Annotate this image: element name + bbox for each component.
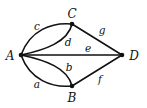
edge-f [72, 55, 122, 86]
vertex-label-d: D [128, 49, 139, 63]
vertex-a-dot [19, 53, 24, 58]
edge-label-g: g [99, 24, 106, 36]
edge-label-c: c [34, 20, 40, 32]
edge-label-f: f [97, 73, 104, 85]
edge-label-d: d [65, 36, 72, 48]
edge-g [72, 24, 122, 55]
graph-diagram: A B C D a b c d e f g [0, 0, 147, 108]
vertex-label-b: B [67, 91, 77, 105]
vertex-c-dot [70, 22, 75, 27]
edge-label-b: b [66, 61, 73, 73]
edge-b [21, 55, 72, 86]
edge-a [21, 55, 72, 86]
vertex-label-c: C [67, 7, 76, 21]
vertex-d-dot [120, 53, 125, 58]
edge-label-a: a [34, 78, 40, 90]
vertex-b-dot [70, 84, 75, 89]
vertex-label-a: A [5, 49, 15, 63]
edge-label-e: e [85, 42, 91, 54]
